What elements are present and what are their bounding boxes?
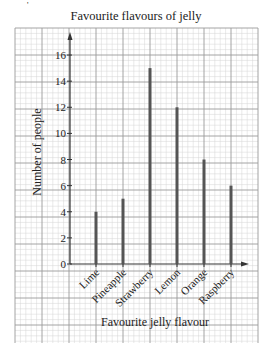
x-tick-labels: LimePineappleStrawberryLemonOrangeRaspbe… (77, 266, 237, 309)
y-tick-label: 14 (55, 75, 67, 87)
y-tick-label: 8 (61, 154, 67, 166)
y-tick-label: 6 (61, 180, 67, 192)
bar-lime (95, 212, 98, 264)
x-axis-title: Favourite jelly flavour (101, 315, 209, 329)
grid-major-lines (15, 28, 258, 343)
bar-chart: ' Favourite flavours of jelly 0246810121… (0, 0, 272, 354)
y-tick-label: 2 (61, 232, 67, 244)
y-tick-label: 12 (55, 101, 66, 113)
y-axis-title: Number of people (30, 108, 44, 195)
bar-lemon (176, 107, 179, 264)
chart-title: Favourite flavours of jelly (71, 9, 203, 23)
corner-mark: ' (27, 1, 29, 10)
y-tick-label: 10 (55, 127, 67, 139)
y-tick-label: 16 (55, 49, 67, 61)
bar-raspberry (230, 186, 233, 264)
x-tick-label: Lemon (152, 266, 183, 297)
bar-strawberry (149, 68, 152, 264)
y-tick-label: 4 (61, 206, 67, 218)
bars (95, 68, 233, 264)
bar-orange (203, 160, 206, 264)
y-tick-label: 0 (61, 258, 67, 270)
grid-minor-lines (15, 28, 258, 343)
bar-pineapple (122, 199, 125, 264)
